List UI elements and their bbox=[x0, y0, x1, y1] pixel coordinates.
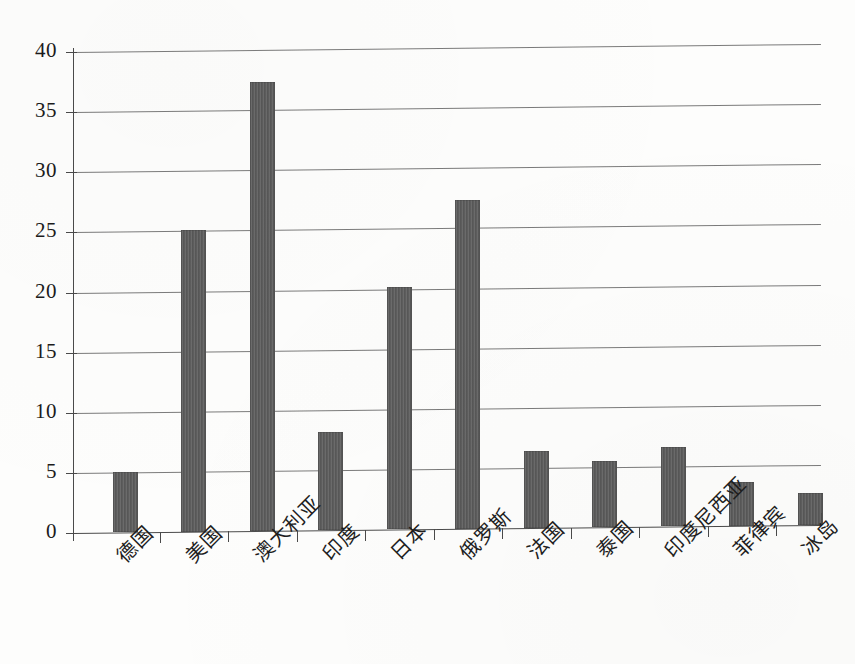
y-axis-tick bbox=[66, 293, 77, 294]
gridline bbox=[73, 44, 821, 53]
gridline bbox=[73, 164, 821, 173]
bar bbox=[318, 432, 343, 531]
bar bbox=[455, 200, 480, 528]
y-tick-label: 10 bbox=[11, 399, 57, 424]
plot-area: 0510152025303540 德国美国澳大利亚印度日本俄罗斯法国泰国印度尼西… bbox=[73, 44, 823, 540]
y-axis-tick bbox=[66, 473, 77, 474]
y-tick-label: 15 bbox=[11, 339, 57, 364]
y-axis-line bbox=[73, 48, 74, 541]
x-axis-tick bbox=[160, 532, 161, 543]
bar bbox=[661, 447, 686, 526]
y-axis-tick bbox=[66, 413, 77, 414]
bar bbox=[524, 451, 549, 528]
x-axis-tick bbox=[639, 527, 640, 538]
x-axis-tick bbox=[434, 529, 435, 540]
y-axis-tick bbox=[66, 172, 77, 173]
y-axis-tick bbox=[66, 112, 77, 113]
bar bbox=[387, 287, 412, 530]
x-axis-tick bbox=[571, 528, 572, 539]
bar bbox=[250, 82, 275, 531]
bar bbox=[181, 230, 206, 532]
y-tick-label: 40 bbox=[11, 38, 57, 63]
y-axis-tick bbox=[66, 232, 77, 233]
bar-chart-figure: 0510152025303540 德国美国澳大利亚印度日本俄罗斯法国泰国印度尼西… bbox=[0, 0, 855, 664]
y-axis-tick bbox=[66, 353, 77, 354]
y-axis-tick bbox=[66, 52, 77, 53]
gridline bbox=[73, 104, 821, 113]
x-axis-tick bbox=[365, 530, 366, 541]
y-tick-label: 20 bbox=[11, 279, 57, 304]
y-tick-label: 30 bbox=[11, 158, 57, 183]
y-tick-label: 35 bbox=[11, 98, 57, 123]
y-tick-label: 0 bbox=[11, 519, 57, 544]
y-tick-label: 25 bbox=[11, 218, 57, 243]
x-axis-tick bbox=[228, 531, 229, 542]
y-tick-label: 5 bbox=[11, 459, 57, 484]
